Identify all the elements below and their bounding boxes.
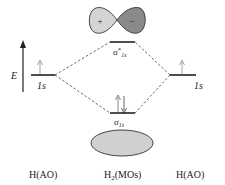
left-ao-level: 1s [31,60,55,91]
column-labels: H(AO) H2(MOs) H(AO) [29,169,204,182]
left-1s-label: 1s [37,80,46,91]
right-column-label: H(AO) [176,169,204,181]
antibonding-mo: + − σ*1s [89,8,145,59]
energy-axis: E [10,40,26,92]
electron-up-arrow-icon [180,60,185,74]
left-column-label: H(AO) [29,169,57,181]
energy-axis-label: E [10,70,17,81]
electron-pair-arrows-icon [116,95,127,113]
mo-diagram: E 1s 1s + − σ*1s [0,0,225,185]
electron-up-arrow-icon [38,60,43,74]
negative-lobe-sign: − [130,16,135,26]
right-ao-level: 1s [170,60,203,91]
center-column-label: H2(MOs) [104,169,141,182]
right-1s-label: 1s [194,80,203,91]
sigma-star-label: σ*1s [113,46,127,58]
sigma-label: σ1s [114,117,125,128]
bonding-mo: σ1s [91,95,153,156]
positive-lobe [89,8,117,34]
antibonding-orbital-lobes-icon: + − [89,8,145,34]
energy-axis-arrowhead-icon [20,40,26,48]
bonding-orbital-icon [91,130,153,156]
positive-lobe-sign: + [98,16,103,26]
